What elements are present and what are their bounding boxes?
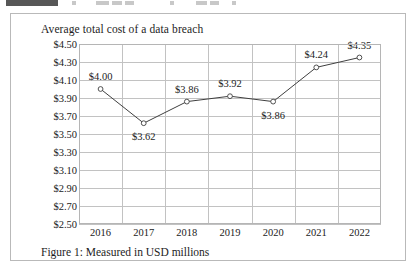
figure-caption: Figure 1: Measured in USD millions (41, 246, 209, 258)
y-axis-tick-label: $3.30 (13, 147, 77, 158)
figure-container: Average total cost of a data breach $4.5… (11, 14, 407, 262)
x-axis-tick-label: 2017 (133, 227, 154, 238)
toolbar-selected-item[interactable] (6, 0, 58, 6)
y-axis-tick-label: $3.50 (13, 129, 77, 140)
data-point-label: $4.24 (304, 49, 328, 60)
line-series (79, 44, 381, 224)
toolbar-item[interactable] (196, 1, 207, 5)
toolbar-item[interactable] (72, 1, 76, 5)
y-axis-tick-label: $4.30 (13, 57, 77, 68)
data-point-marker (357, 55, 362, 60)
data-point-marker (228, 94, 233, 99)
data-point-marker (314, 65, 319, 70)
y-axis-tick-label: $3.70 (13, 111, 77, 122)
data-point-label: $3.62 (132, 131, 156, 142)
data-point-marker (271, 99, 276, 104)
toolbar-item[interactable] (170, 1, 174, 5)
screenshot-root: Average total cost of a data breach $4.5… (0, 0, 418, 275)
x-axis-tick-label: 2019 (220, 227, 241, 238)
data-point-label: $4.35 (348, 39, 372, 50)
y-axis-tick-label: $3.90 (13, 93, 77, 104)
grid-line-horizontal (79, 224, 381, 225)
y-axis-tick-label: $2.90 (13, 183, 77, 194)
toolbar-item[interactable] (232, 1, 236, 5)
data-point-label: $4.00 (89, 71, 113, 82)
x-axis-tick-label: 2018 (176, 227, 197, 238)
data-point-marker (184, 99, 189, 104)
x-axis-tick-labels: 2016201720182019202020212022 (79, 227, 381, 243)
y-axis-tick-label: $4.10 (13, 75, 77, 86)
plot-area: $4.00$3.62$3.86$3.92$3.86$4.24$4.35 (79, 44, 381, 224)
x-axis-tick-label: 2020 (263, 227, 284, 238)
data-point-marker (98, 87, 103, 92)
toolbar-item[interactable] (112, 1, 122, 5)
toolbar-item[interactable] (96, 1, 109, 5)
data-point-label: $3.86 (261, 109, 285, 120)
series-line (101, 58, 360, 124)
toolbar-item[interactable] (210, 1, 219, 5)
y-axis-tick-label: $2.50 (13, 219, 77, 230)
x-axis-tick-label: 2022 (349, 227, 370, 238)
y-axis-tick-label: $3.10 (13, 165, 77, 176)
x-axis-tick-label: 2016 (90, 227, 111, 238)
toolbar-item[interactable] (125, 1, 134, 5)
x-axis-tick-label: 2021 (306, 227, 327, 238)
data-point-label: $3.86 (175, 83, 199, 94)
y-axis-tick-label: $4.50 (13, 39, 77, 50)
data-point-marker (141, 121, 146, 126)
chart-title: Average total cost of a data breach (41, 23, 203, 35)
y-axis-tick-label: $2.70 (13, 201, 77, 212)
y-axis-tick-labels: $4.50$4.30$4.10$3.90$3.70$3.50$3.30$3.10… (11, 44, 77, 224)
document-page: Average total cost of a data breach $4.5… (10, 13, 406, 261)
data-point-label: $3.92 (218, 78, 242, 89)
application-toolbar[interactable] (0, 0, 418, 9)
